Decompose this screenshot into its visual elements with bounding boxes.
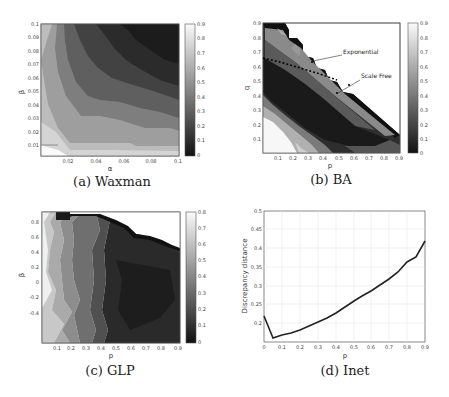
- svg-text:0.2: 0.2: [253, 122, 261, 128]
- svg-text:0.9: 0.9: [395, 155, 403, 161]
- svg-text:0.5: 0.5: [197, 79, 205, 85]
- svg-text:0.1: 0.1: [198, 322, 206, 328]
- caption-inet: (d) Inet: [245, 363, 445, 378]
- caption-waxman: (a) Waxman: [12, 174, 212, 189]
- svg-text:0.6: 0.6: [127, 345, 135, 351]
- svg-text:0.6: 0.6: [197, 65, 205, 71]
- svg-text:0.1: 0.1: [31, 21, 39, 27]
- svg-text:0.4: 0.4: [253, 93, 261, 99]
- svg-text:0.1: 0.1: [197, 137, 205, 143]
- svg-text:0.8: 0.8: [197, 35, 205, 41]
- svg-text:0: 0: [197, 152, 200, 158]
- ba-contour-plot: Exponential Scale Free 0.90.80.7 0.60.50…: [225, 0, 449, 200]
- svg-text:0.7: 0.7: [197, 50, 205, 56]
- svg-text:0.8: 0.8: [403, 344, 411, 350]
- svg-text:0.5: 0.5: [198, 257, 206, 263]
- svg-text:β: β: [18, 273, 26, 277]
- svg-text:0.7: 0.7: [385, 344, 393, 350]
- svg-text:0.2: 0.2: [420, 122, 428, 128]
- svg-text:0.45: 0.45: [251, 226, 262, 232]
- svg-text:0.2: 0.2: [197, 123, 205, 129]
- svg-text:0.9: 0.9: [420, 20, 428, 26]
- svg-text:0.8: 0.8: [253, 35, 261, 41]
- svg-text:0.8: 0.8: [420, 35, 428, 41]
- svg-text:0.8: 0.8: [31, 219, 39, 225]
- svg-text:0.6: 0.6: [253, 64, 261, 70]
- svg-text:-0.4: -0.4: [29, 310, 39, 316]
- svg-text:0.3: 0.3: [82, 345, 90, 351]
- svg-text:0.4: 0.4: [254, 245, 262, 251]
- svg-text:0.3: 0.3: [197, 108, 205, 114]
- svg-text:0.7: 0.7: [198, 225, 206, 231]
- svg-text:0.9: 0.9: [421, 344, 429, 350]
- svg-text:0.09: 0.09: [28, 34, 39, 40]
- svg-text:0.8: 0.8: [157, 345, 165, 351]
- caption-ba: (b) BA: [231, 172, 431, 187]
- svg-text:0.5: 0.5: [112, 345, 120, 351]
- svg-text:0.6: 0.6: [31, 234, 39, 240]
- svg-text:0.08: 0.08: [145, 158, 156, 164]
- svg-text:0.02: 0.02: [28, 129, 39, 135]
- svg-text:0.35: 0.35: [251, 264, 262, 270]
- svg-text:0.2: 0.2: [31, 264, 39, 270]
- svg-text:0.4: 0.4: [420, 93, 428, 99]
- svg-text:0.06: 0.06: [28, 75, 39, 81]
- svg-text:0.2: 0.2: [254, 320, 262, 326]
- svg-text:p: p: [328, 162, 333, 170]
- svg-text:0.05: 0.05: [28, 88, 39, 94]
- svg-text:0.3: 0.3: [314, 344, 322, 350]
- chart-waxman: 0.10.090.08 0.070.060.05 0.040.030.02 0.…: [0, 0, 225, 200]
- svg-text:p: p: [109, 352, 114, 360]
- svg-text:0: 0: [262, 344, 265, 350]
- svg-text:0.5: 0.5: [254, 208, 262, 214]
- y-axis-label-beta: β: [18, 90, 26, 94]
- svg-text:0.1: 0.1: [274, 155, 282, 161]
- svg-text:0.7: 0.7: [142, 345, 150, 351]
- svg-text:0.7: 0.7: [253, 49, 261, 55]
- chart-ba: Exponential Scale Free 0.90.80.7 0.60.50…: [225, 0, 449, 200]
- svg-text:0.8: 0.8: [198, 209, 206, 215]
- svg-text:0: 0: [198, 339, 201, 345]
- svg-text:-0.2: -0.2: [29, 294, 39, 300]
- svg-text:0.2: 0.2: [198, 306, 206, 312]
- annotation-exponential: Exponential: [343, 48, 379, 56]
- svg-text:0.6: 0.6: [350, 155, 358, 161]
- svg-text:0.5: 0.5: [350, 344, 358, 350]
- colorbar: [408, 23, 418, 153]
- svg-text:0.06: 0.06: [118, 158, 129, 164]
- svg-text:0.5: 0.5: [253, 78, 261, 84]
- svg-text:0.9: 0.9: [197, 21, 205, 27]
- svg-text:0.5: 0.5: [420, 78, 428, 84]
- chart-glp: 0.80.60.4 0.20-0.2 -0.4 0.10.20.3 0.40.5…: [0, 200, 225, 397]
- caption-glp: (c) GLP: [10, 363, 210, 378]
- svg-text:0.1: 0.1: [174, 158, 182, 164]
- colorbar: [186, 212, 196, 343]
- svg-text:0.7: 0.7: [365, 155, 373, 161]
- svg-text:p: p: [343, 352, 348, 360]
- colorbar: [185, 24, 195, 156]
- svg-text:0.6: 0.6: [420, 64, 428, 70]
- svg-text:0.1: 0.1: [420, 136, 428, 142]
- svg-text:0.1: 0.1: [53, 345, 61, 351]
- svg-text:0.9: 0.9: [253, 20, 261, 26]
- svg-text:Discrepancy distance: Discrepancy distance: [241, 239, 249, 314]
- svg-text:0.04: 0.04: [90, 158, 101, 164]
- svg-text:0.3: 0.3: [254, 283, 262, 289]
- svg-text:0: 0: [36, 279, 39, 285]
- svg-text:0: 0: [420, 150, 423, 156]
- svg-text:0.4: 0.4: [319, 155, 327, 161]
- svg-text:0.3: 0.3: [198, 290, 206, 296]
- svg-text:0.3: 0.3: [253, 107, 261, 113]
- svg-text:0.4: 0.4: [332, 344, 340, 350]
- svg-text:0.1: 0.1: [253, 136, 261, 142]
- svg-text:0.01: 0.01: [28, 142, 39, 148]
- svg-text:0.04: 0.04: [28, 102, 39, 108]
- svg-text:0.03: 0.03: [28, 115, 39, 121]
- svg-text:0.25: 0.25: [251, 301, 262, 307]
- svg-text:0.2: 0.2: [296, 344, 304, 350]
- annotation-scale-free: Scale Free: [361, 72, 392, 79]
- svg-text:0.8: 0.8: [380, 155, 388, 161]
- svg-text:0.3: 0.3: [304, 155, 312, 161]
- svg-text:q: q: [243, 86, 251, 90]
- svg-text:0.07: 0.07: [28, 61, 39, 67]
